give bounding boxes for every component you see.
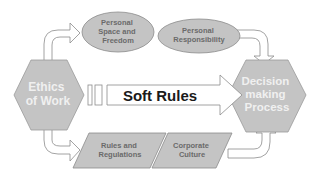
curved-arrow-bottom-left — [44, 128, 80, 161]
personal-responsibility-node: Personal Responsibility — [158, 19, 240, 53]
soft-rules-label: Soft Rules — [123, 87, 197, 104]
rules-and-regulations-node: Rules and Regulations — [73, 133, 166, 168]
rules-and-regulations-label: Rules and Regulations — [99, 141, 142, 159]
ethics-of-work-node: Ethics of Work — [14, 60, 84, 130]
personal-space-freedom-node: Personal Space and Freedom — [82, 12, 154, 52]
curved-arrow-top-left — [44, 23, 80, 62]
ethics-of-work-label: Ethics of Work — [26, 80, 71, 108]
arrow-stripe-1 — [88, 85, 92, 105]
soft-rules-arrow: Soft Rules — [88, 75, 242, 115]
diagram-canvas: Ethics of Work Decision making Process P… — [0, 0, 318, 181]
arrow-stripe-2 — [95, 85, 102, 105]
personal-space-freedom-label: Personal Space and Freedom — [98, 18, 138, 45]
decision-making-process-label: Decision making Process — [241, 75, 292, 113]
